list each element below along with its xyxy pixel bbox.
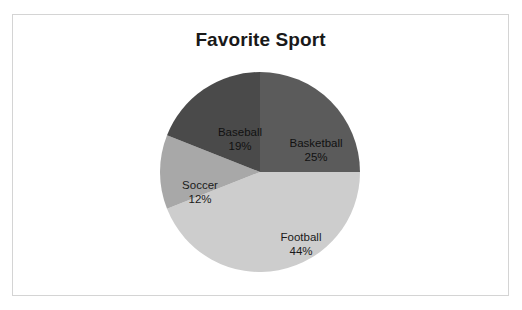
pie-label-basketball: Basketball 25% <box>273 137 359 164</box>
pie-label-soccer-value: 12% <box>170 193 230 207</box>
pie-label-football: Football 44% <box>264 231 338 258</box>
chart-title: Favorite Sport <box>13 29 508 51</box>
cut-off-text: · · · · · · · <box>60 0 107 3</box>
chart-frame: Favorite Sport Basketball 25% Football 4… <box>12 14 509 296</box>
pie-label-baseball-name: Baseball <box>205 126 275 140</box>
pie-label-soccer-name: Soccer <box>170 179 230 193</box>
pie-label-football-name: Football <box>264 231 338 245</box>
pie-label-baseball-value: 19% <box>205 140 275 154</box>
pie-label-soccer: Soccer 12% <box>170 179 230 206</box>
pie-label-basketball-name: Basketball <box>273 137 359 151</box>
pie-label-football-value: 44% <box>264 245 338 259</box>
pie-label-baseball: Baseball 19% <box>205 126 275 153</box>
pie-label-basketball-value: 25% <box>273 151 359 165</box>
cut-off-text-line: · · · · · · · <box>0 0 522 9</box>
